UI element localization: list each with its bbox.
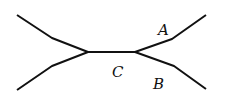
edge-right-a [135,15,206,52]
label-a: A [156,21,169,39]
edge-left-lower [17,52,88,90]
label-c: C [112,63,124,81]
label-b: B [152,75,164,93]
edge-left-upper [17,15,88,52]
tree-diagram: A C B [0,0,227,97]
edge-right-b [135,52,206,89]
